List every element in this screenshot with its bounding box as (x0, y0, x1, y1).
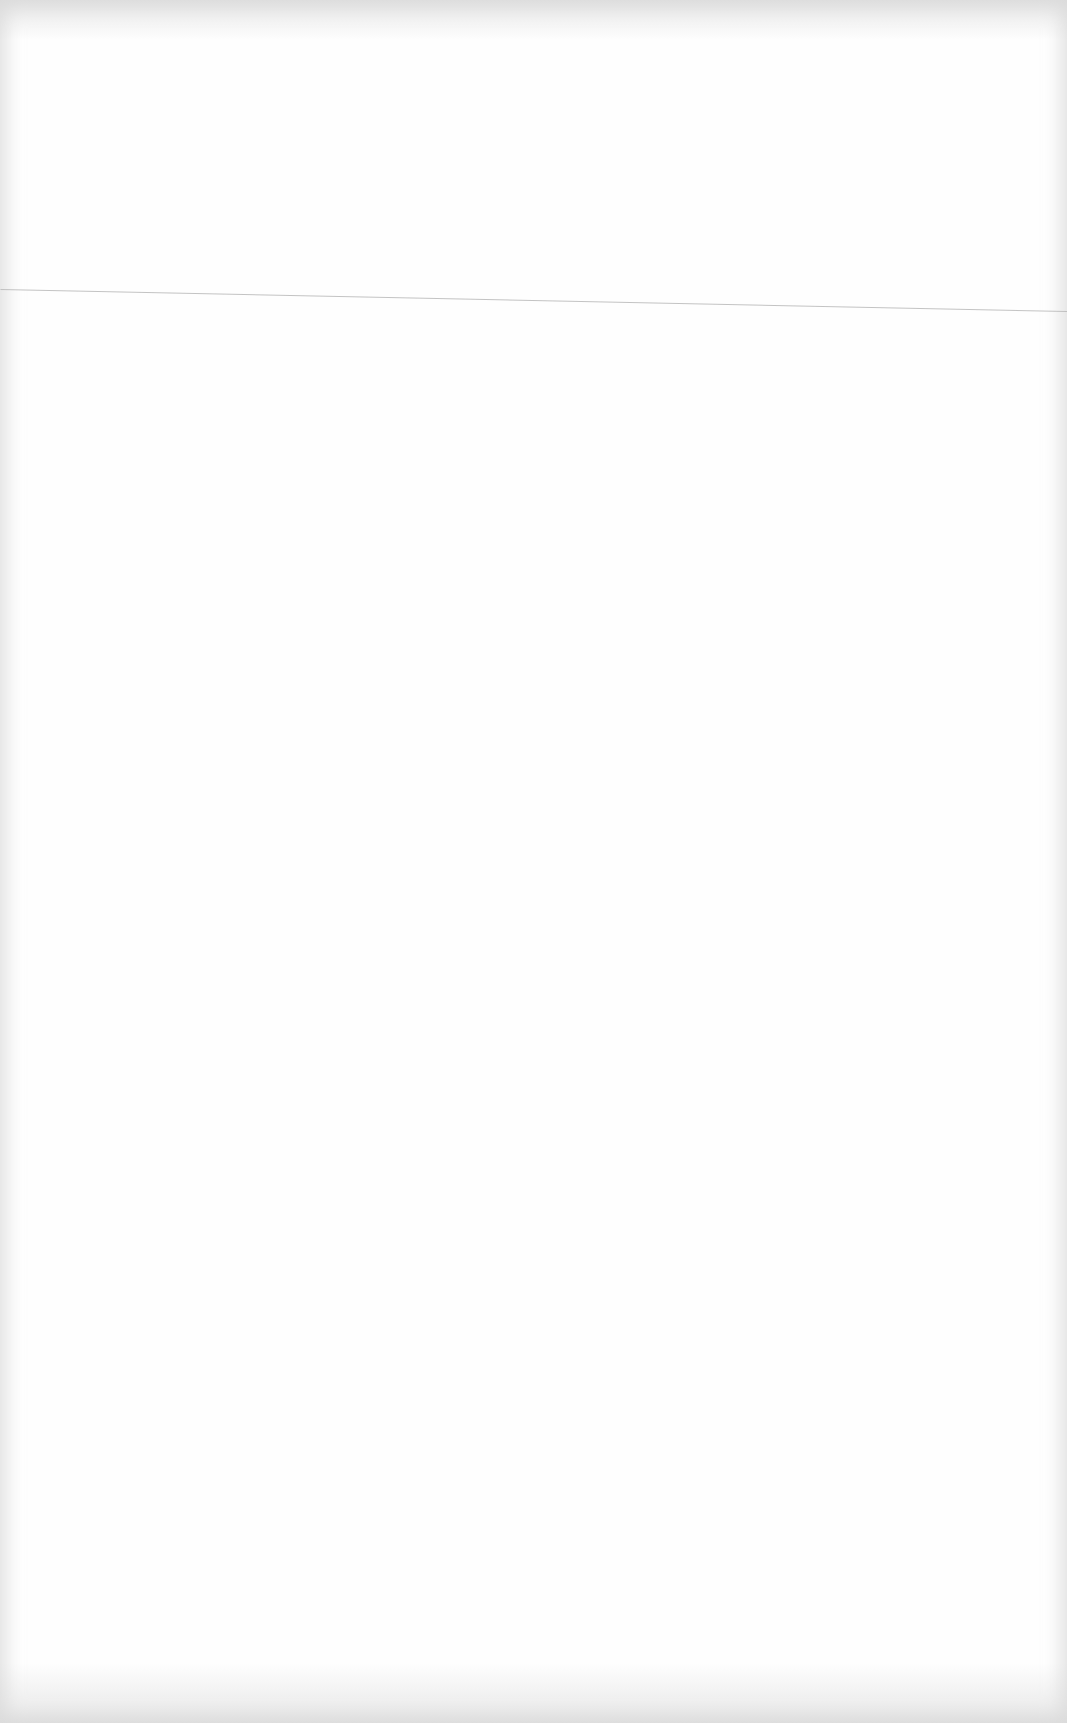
page-content-area (60, 60, 1007, 1663)
blank-document-page (0, 0, 1067, 1723)
